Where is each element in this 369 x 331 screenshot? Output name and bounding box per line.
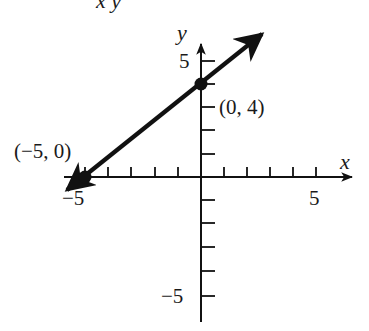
point-label-neg5-0: (−5, 0) bbox=[14, 141, 71, 162]
point-neg5-0 bbox=[79, 171, 92, 184]
y-tick-label-5: 5 bbox=[179, 51, 190, 72]
x-tick-label-neg5: −5 bbox=[62, 188, 84, 209]
x-tick-label-5: 5 bbox=[309, 188, 320, 209]
x-axis-label: x bbox=[340, 151, 350, 173]
point-0-4 bbox=[195, 78, 208, 91]
y-axis-label: y bbox=[177, 22, 187, 44]
point-label-0-4: (0, 4) bbox=[219, 97, 265, 118]
y-tick-label-neg5: −5 bbox=[161, 286, 183, 307]
y-axis-ticks bbox=[201, 61, 215, 296]
